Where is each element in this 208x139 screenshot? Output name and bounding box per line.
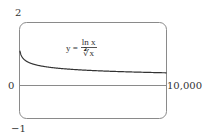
y-max-label: 2 [15,8,21,18]
equation-lhs: y = [66,43,78,53]
x-min-label: 0 [8,81,14,91]
y-min-label: −1 [11,124,26,134]
equation-numerator: ln x [81,37,97,48]
equation-fraction: ln x ∛x [81,37,97,58]
equation-denominator: ∛x [83,48,94,58]
x-max-label: 10,000 [167,81,202,91]
function-annotation: y = ln x ∛x [66,37,97,58]
plot-area [0,0,208,139]
